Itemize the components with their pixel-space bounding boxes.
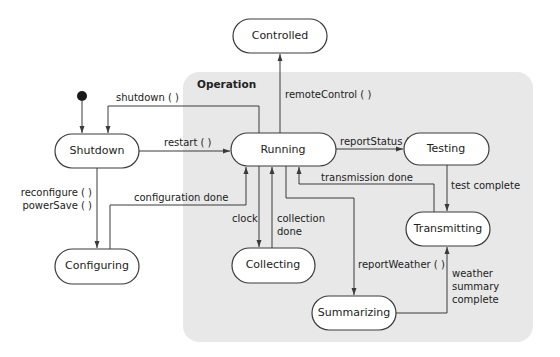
state-diagram: Operation shutdown ( ) restart ( ) remot… [0, 0, 560, 357]
state-controlled[interactable]: Controlled [233, 19, 327, 53]
state-label-running: Running [260, 143, 305, 156]
edge-label-summary: summary [452, 281, 499, 292]
state-label-testing: Testing [426, 142, 466, 155]
state-transmitting[interactable]: Transmitting [406, 212, 490, 246]
edge-label-clock: clock [232, 213, 258, 224]
state-label-shutdown: Shutdown [70, 144, 125, 157]
edge-label-report-weather: reportWeather ( ) [358, 259, 445, 270]
state-label-controlled: Controlled [252, 29, 309, 42]
state-label-transmitting: Transmitting [413, 222, 482, 235]
state-collecting[interactable]: Collecting [232, 248, 315, 283]
edge-label-weather: weather [452, 268, 494, 279]
edge-label-complete: complete [452, 294, 499, 305]
state-summarizing[interactable]: Summarizing [312, 296, 396, 330]
state-label-configuring: Configuring [65, 259, 129, 272]
state-label-summarizing: Summarizing [318, 306, 391, 319]
edge-label-collection: collection [277, 213, 325, 224]
state-running[interactable]: Running [231, 133, 336, 166]
edge-label-transmission-done: transmission done [321, 172, 413, 183]
edge-label-remote-control: remoteControl ( ) [285, 89, 371, 100]
operation-group-label: Operation [197, 78, 256, 90]
edge-label-power-save: powerSave ( ) [22, 200, 92, 211]
state-configuring[interactable]: Configuring [55, 249, 139, 284]
edge-label-configuration-done: configuration done [134, 192, 228, 203]
state-shutdown[interactable]: Shutdown [55, 134, 139, 168]
edge-label-restart: restart ( ) [164, 137, 212, 148]
edge-label-reconfigure: reconfigure ( ) [21, 187, 92, 198]
edge-label-shutdown: shutdown ( ) [116, 92, 179, 103]
edge-label-done: done [277, 226, 302, 237]
initial-state-dot [77, 91, 87, 101]
state-testing[interactable]: Testing [404, 133, 489, 165]
edge-label-test-complete: test complete [451, 180, 520, 191]
state-label-collecting: Collecting [246, 258, 301, 271]
